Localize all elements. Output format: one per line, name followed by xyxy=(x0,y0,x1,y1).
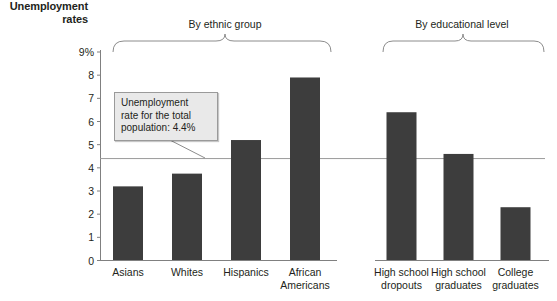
chart-canvas xyxy=(0,0,557,301)
callout-line-2: rate for the total xyxy=(121,110,212,123)
bar-asians xyxy=(113,186,143,260)
reference-line-callout: Unemployment rate for the total populati… xyxy=(114,92,218,141)
bar-whites xyxy=(172,174,202,261)
category-label-african-americans-line-2: Americans xyxy=(269,279,341,292)
brace-educational-level xyxy=(383,34,544,52)
bar-african-americans xyxy=(290,77,320,260)
brace-ethnic-group xyxy=(113,34,331,52)
bar-college-graduates xyxy=(501,207,531,260)
bar-hispanics xyxy=(231,140,261,260)
bar-high-school-dropouts xyxy=(387,112,417,260)
category-label-african-americans: African Americans xyxy=(269,266,341,291)
category-label-african-americans-line-1: African xyxy=(269,266,341,279)
y-axis-ticks xyxy=(97,52,101,261)
category-label-college-graduates-line-2: graduates xyxy=(478,279,553,292)
callout-line-1: Unemployment xyxy=(121,97,212,110)
category-label-college-graduates-line-1: College xyxy=(478,266,553,279)
callout-line-3: population: 4.4% xyxy=(121,122,212,135)
unemployment-rates-bar-chart: Unemployment rates 9%876543210 By ethnic… xyxy=(0,0,557,301)
bar-high-school-graduates xyxy=(444,154,474,261)
category-label-college-graduates: College graduates xyxy=(478,266,553,291)
